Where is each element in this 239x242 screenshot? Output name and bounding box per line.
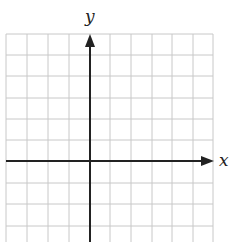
x-axis-arrow-icon	[201, 156, 214, 166]
coordinate-plane: x y	[0, 0, 239, 242]
y-axis-arrow-icon	[85, 34, 95, 47]
y-axis	[85, 34, 95, 242]
x-axis-label: x	[219, 150, 229, 170]
grid-lines	[6, 34, 213, 242]
y-axis-label: y	[84, 6, 95, 26]
